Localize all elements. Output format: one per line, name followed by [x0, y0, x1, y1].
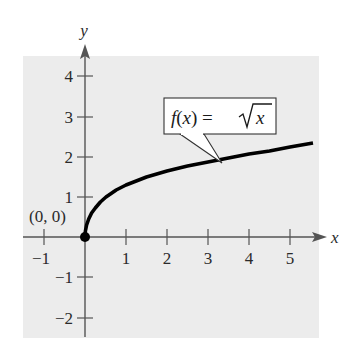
- x-tick-label: 4: [245, 249, 254, 268]
- y-tick-label: 3: [65, 108, 74, 127]
- chart-canvas: −1 1 2 3 4 5 4 3 2 1 −1 −2 y x (0, 0) f(…: [0, 0, 356, 354]
- y-tick-label: −1: [55, 268, 73, 287]
- y-axis-label: y: [78, 21, 88, 40]
- y-tick-label: 1: [65, 188, 74, 207]
- x-tick-label: 3: [204, 249, 213, 268]
- origin-point-label: (0, 0): [29, 207, 66, 226]
- x-tick-label: 1: [122, 249, 131, 268]
- x-tick-label: −1: [32, 249, 50, 268]
- callout-sqrt-argument: x: [255, 107, 265, 128]
- origin-point-marker: [80, 232, 90, 242]
- x-tick-label: 2: [163, 249, 172, 268]
- y-tick-label: −2: [55, 309, 73, 328]
- x-tick-label: 5: [286, 249, 295, 268]
- x-axis-label: x: [330, 228, 339, 247]
- y-tick-label: 2: [65, 148, 74, 167]
- callout-formula: f(x) =: [171, 107, 213, 129]
- y-tick-label: 4: [65, 67, 74, 86]
